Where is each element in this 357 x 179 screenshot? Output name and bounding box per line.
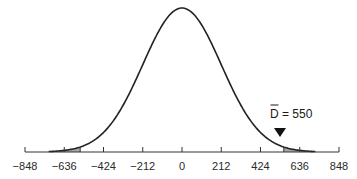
tick-label: −212 xyxy=(130,160,155,172)
tick-label: −636 xyxy=(52,160,77,172)
svg-text:D = 550: D = 550 xyxy=(270,107,313,121)
d-bar-annotation: D = 550 xyxy=(270,105,313,137)
tick-label: −424 xyxy=(91,160,116,172)
tick-label: 0 xyxy=(179,160,185,172)
d-bar-value: = 550 xyxy=(279,107,313,121)
tick-label: 636 xyxy=(291,160,309,172)
tick-label: 848 xyxy=(330,160,348,172)
x-axis-tick-labels: −848 −636 −424 −212 0 212 424 636 848 xyxy=(13,160,349,172)
normal-distribution-chart: −848 −636 −424 −212 0 212 424 636 848 D … xyxy=(0,0,357,179)
tick-label: −848 xyxy=(13,160,38,172)
down-triangle-marker-icon xyxy=(274,128,286,137)
d-bar-symbol: D xyxy=(270,107,279,121)
density-curve xyxy=(49,8,316,152)
tick-label: 424 xyxy=(251,160,269,172)
tick-label: 212 xyxy=(212,160,230,172)
